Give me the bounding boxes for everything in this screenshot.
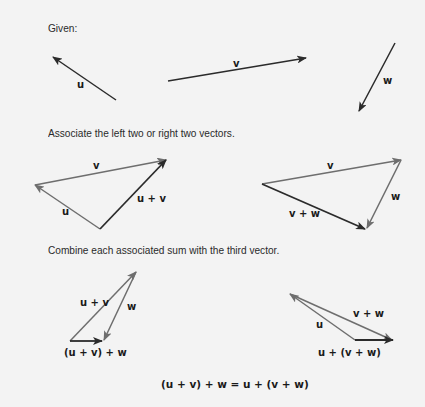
- associate-left: u v u + v: [35, 160, 166, 229]
- label-u-plus-vpw: u + (v + w): [318, 347, 381, 358]
- combine-right: v + w u u + (v + w): [290, 294, 393, 358]
- combine-left: u + v w (u + v) + w: [64, 272, 136, 358]
- label-v: v: [93, 160, 100, 171]
- vector-u: [53, 57, 116, 100]
- vector-diagram: u v w u v u + v v w v + w u + v w (u + v…: [0, 0, 425, 407]
- label-w: w: [127, 301, 136, 312]
- label-v: v: [233, 58, 240, 69]
- label-u: u: [316, 319, 323, 330]
- label-u-plus-v: u + v: [80, 297, 109, 308]
- label-w: w: [391, 191, 400, 202]
- given-vectors: u v w: [53, 43, 395, 111]
- label-w: w: [383, 75, 392, 86]
- vector-v-plus-w: [262, 184, 365, 229]
- label-v: v: [327, 160, 334, 171]
- label-v-plus-w: v + w: [353, 308, 384, 319]
- associate-right: v w v + w: [262, 160, 401, 229]
- label-u-plus-v: u + v: [137, 193, 166, 204]
- label-u: u: [62, 206, 69, 217]
- label-u: u: [77, 79, 84, 90]
- associativity-equation: (u + v) + w = u + (v + w): [161, 378, 309, 390]
- vector-u: [290, 294, 355, 340]
- label-upv-plus-w: (u + v) + w: [64, 347, 127, 358]
- label-v-plus-w: v + w: [289, 208, 320, 219]
